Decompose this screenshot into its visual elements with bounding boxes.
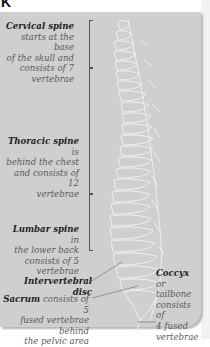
term-thoracic-spine: Thoracic spine [8, 136, 79, 146]
term-coccyx: Coccyx [156, 268, 189, 278]
desc-inline: consists of 5 [40, 294, 89, 315]
desc-line: vertebrae [37, 189, 79, 199]
term-sacrum: Sacrum [3, 294, 40, 304]
label-thoracic-spine: Thoracic spine is behind the chest and c… [2, 136, 79, 200]
thoracic-bracket [89, 68, 93, 194]
desc-line: 4 fused [156, 321, 188, 331]
desc-line: tailbone [156, 289, 191, 299]
desc-line: the pelvic area [24, 336, 89, 346]
term-cervical-spine: Cervical spine [6, 21, 74, 31]
label-lumbar-spine: Lumbar spine in the lower back consists … [2, 224, 79, 277]
cervical-bracket [89, 20, 93, 68]
desc-line: and consists of 12 [14, 168, 79, 189]
desc-line: of the skull and [7, 53, 74, 63]
term-lumbar-spine: Lumbar spine [13, 224, 79, 234]
label-coccyx: Coccyx or tailbone consists of 4 fused v… [156, 268, 200, 342]
desc-line: vertebrae [156, 332, 198, 342]
desc-line: vertebrae [37, 266, 79, 276]
desc-line: vertebrae [32, 74, 74, 84]
desc-line: the lower back [14, 245, 79, 255]
desc-line: fused vertebrae behind [20, 315, 89, 336]
label-cervical-spine: Cervical spine starts at the base of the… [2, 21, 74, 85]
desc-line: consists of 7 [20, 63, 74, 73]
desc-inline: in [71, 235, 79, 245]
lumbar-bracket [89, 194, 93, 251]
label-sacrum: Sacrum consists of 5 fused vertebrae beh… [2, 294, 89, 347]
desc-inline: or [156, 279, 165, 289]
desc-line: behind the chest [6, 157, 79, 167]
desc-line: consists of 5 [25, 256, 79, 266]
desc-inline: is [72, 147, 79, 157]
desc-line: consists of [156, 300, 191, 321]
desc-line: starts at the base [21, 32, 74, 53]
